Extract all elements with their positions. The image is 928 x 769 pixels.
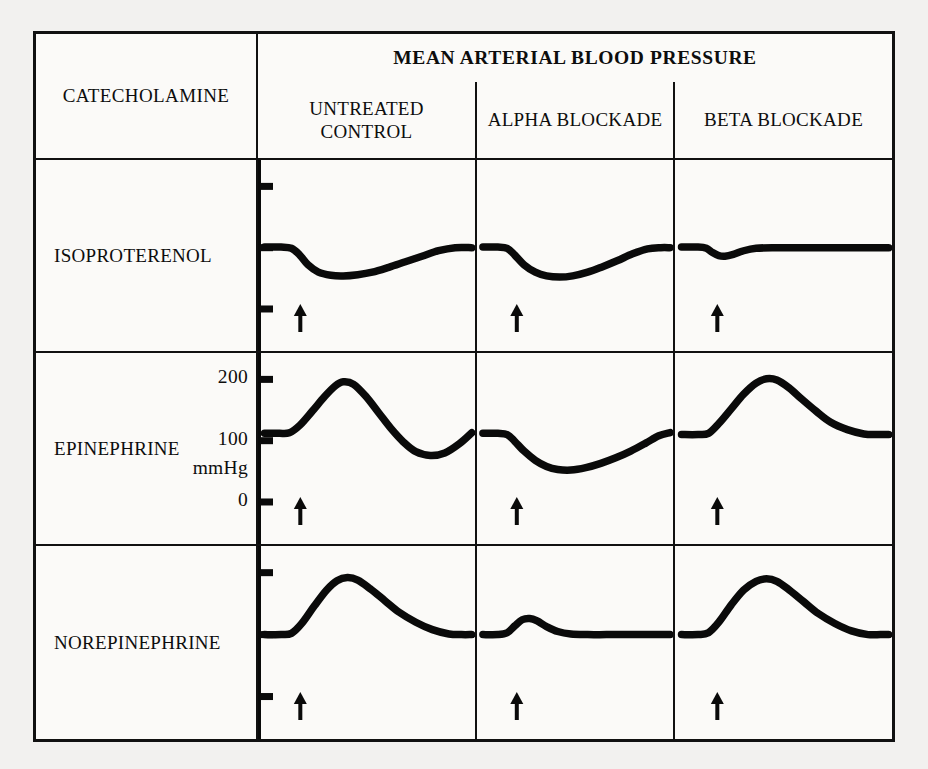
arrow-up-icon <box>510 497 523 525</box>
panel-isoproterenol-beta-blockade <box>675 160 892 353</box>
header-mean-arterial-blood-pressure: MEAN ARTERIAL BLOOD PRESSURE <box>258 34 892 82</box>
injection-arrow-layer <box>675 160 892 351</box>
panel-norepinephrine-alpha-blockade <box>477 546 675 739</box>
arrow-up-icon <box>294 497 307 525</box>
row-label-epinephrine: EPINEPHRINE 200 100 mmHg 0 <box>36 353 258 546</box>
arrow-up-icon <box>510 304 523 332</box>
injection-arrow-layer <box>258 160 475 351</box>
injection-arrow-layer <box>477 546 673 739</box>
figure-frame: CATECHOLAMINE MEAN ARTERIAL BLOOD PRESSU… <box>33 31 895 742</box>
arrow-up-icon <box>294 692 307 720</box>
panel-epinephrine-beta-blockade <box>675 353 892 546</box>
row-label-text: ISOPROTERENOL <box>54 245 212 267</box>
column-header-untreated-control: UNTREATED CONTROL <box>258 82 477 160</box>
axis-unit-label: mmHg <box>193 457 248 479</box>
panel-epinephrine-alpha-blockade <box>477 353 675 546</box>
injection-arrow-layer <box>258 546 475 739</box>
injection-arrow-layer <box>258 353 475 544</box>
arrow-up-icon <box>711 692 724 720</box>
figure-grid: CATECHOLAMINE MEAN ARTERIAL BLOOD PRESSU… <box>36 34 892 739</box>
row-label-text: NOREPINEPHRINE <box>54 632 221 654</box>
arrow-up-icon <box>294 304 307 332</box>
header-catecholamine: CATECHOLAMINE <box>36 34 258 160</box>
arrow-up-icon <box>711 304 724 332</box>
column-header-alpha-blockade: ALPHA BLOCKADE <box>477 82 675 160</box>
injection-arrow-layer <box>477 353 673 544</box>
arrow-up-icon <box>510 692 523 720</box>
column-header-beta-blockade: BETA BLOCKADE <box>675 82 892 160</box>
arrow-up-icon <box>711 497 724 525</box>
row-label-text: EPINEPHRINE <box>54 438 180 460</box>
row-label-norepinephrine: NOREPINEPHRINE <box>36 546 258 739</box>
injection-arrow-layer <box>675 546 892 739</box>
injection-arrow-layer <box>477 160 673 351</box>
panel-isoproterenol-untreated-control <box>258 160 477 353</box>
axis-tick-label-100: 100 <box>218 428 248 450</box>
axis-tick-label-200: 200 <box>218 366 248 388</box>
panel-norepinephrine-beta-blockade <box>675 546 892 739</box>
axis-tick-label-0: 0 <box>238 489 248 511</box>
panel-epinephrine-untreated-control <box>258 353 477 546</box>
panel-norepinephrine-untreated-control <box>258 546 477 739</box>
row-label-isoproterenol: ISOPROTERENOL <box>36 160 258 353</box>
panel-isoproterenol-alpha-blockade <box>477 160 675 353</box>
injection-arrow-layer <box>675 353 892 544</box>
